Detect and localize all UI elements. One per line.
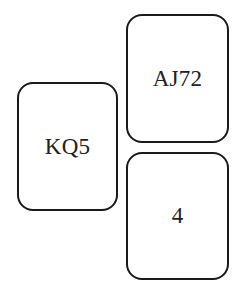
hand-south-label: 4 xyxy=(172,203,184,229)
hand-west-label: KQ5 xyxy=(45,134,90,160)
hand-north-label: AJ72 xyxy=(153,66,202,92)
hand-south-card: 4 xyxy=(126,152,229,280)
hand-west-card: KQ5 xyxy=(17,82,118,211)
hand-north-card: AJ72 xyxy=(126,14,229,143)
